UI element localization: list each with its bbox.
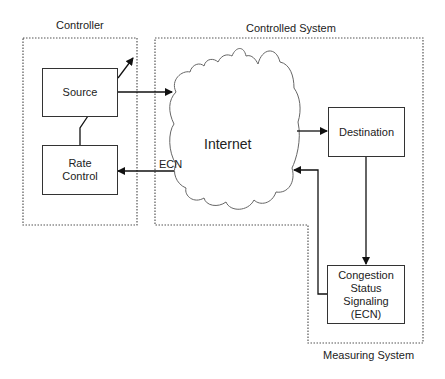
congestion-label-1: Congestion [338,269,394,282]
source-node: Source [42,68,118,117]
measuring-system-label: Measuring System [323,349,414,362]
rate-control-label-2: Control [62,170,97,183]
destination-label: Destination [339,126,394,139]
diagram-canvas: Controller Controlled System Measuring S… [0,0,445,379]
rate-control-node: Rate Control [42,145,118,195]
source-rate-connector [80,116,88,145]
source-label: Source [63,86,98,99]
rate-control-label-1: Rate [68,157,91,170]
ecn-label: ECN [159,158,182,171]
destination-node: Destination [328,107,405,157]
congestion-label-2: Status [350,282,381,295]
controller-label: Controller [56,19,104,32]
source-output-arrow [118,58,133,78]
internet-label: Internet [204,138,251,151]
congestion-label-3: Signaling [343,295,388,308]
controlled-system-label: Controlled System [246,22,336,35]
congestion-to-internet-arrow [294,170,327,294]
congestion-status-node: Congestion Status Signaling (ECN) [327,265,405,324]
congestion-label-4: (ECN) [351,308,382,321]
internet-cloud-icon [170,49,300,210]
